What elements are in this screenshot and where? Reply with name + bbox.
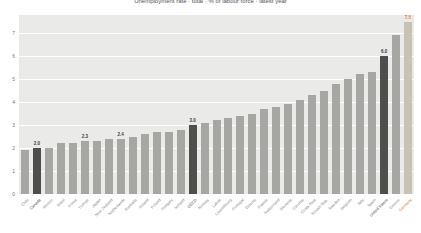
y-tick-label: 7 (1, 31, 15, 36)
y-tick-label: 5 (1, 77, 15, 82)
bar-Sweden (332, 84, 340, 194)
bar-Latvia (213, 120, 221, 194)
bar-value-label: 2.0 (25, 141, 49, 146)
bar-Chile (21, 150, 29, 194)
y-tick-label: 3 (1, 123, 15, 128)
bar-Norway (201, 123, 209, 194)
bar-France (260, 109, 268, 194)
bar-value-label: 2.3 (73, 134, 97, 139)
bar-Luxembourg (224, 118, 232, 194)
bar-Australia (129, 137, 137, 195)
bar-Mexico (45, 148, 53, 194)
bar-New Zealand (105, 139, 113, 194)
bar-Türkiye (81, 141, 89, 194)
bar-Netherlands (117, 139, 125, 194)
bar-Switzerland (272, 107, 280, 194)
bar-value-label: 6.0 (372, 49, 396, 54)
bar-Italy (356, 74, 364, 194)
bar-Slovak Rep. (320, 91, 328, 195)
gridline (19, 56, 414, 57)
bar-value-label: 7.5 (396, 15, 420, 20)
bar-value-label: 2.4 (109, 132, 133, 137)
gridline (19, 79, 414, 80)
bar-Spain (368, 72, 376, 194)
bar-value-label: 3.0 (181, 118, 205, 123)
gridline (19, 102, 414, 103)
y-tick-label: 2 (1, 146, 15, 151)
bar-Ireland (141, 134, 149, 194)
chart-title: Unemployment rate · total · % of labour … (0, 0, 421, 4)
gridline (19, 33, 414, 34)
bar-Iceland (177, 130, 185, 194)
bar-Slovenia (284, 104, 292, 194)
bar-Greece (392, 35, 400, 194)
bar-Korea (69, 143, 77, 194)
bar-Estonia (248, 114, 256, 195)
y-tick-label: 6 (1, 54, 15, 59)
y-tick-label: 4 (1, 100, 15, 105)
bar-Hungary (165, 132, 173, 194)
bar-Poland (153, 132, 161, 194)
bar-Israel (57, 143, 65, 194)
plot-area (19, 15, 414, 194)
bar-Costa Rica (308, 95, 316, 194)
bar-Portugal (236, 116, 244, 194)
bar-United States (380, 56, 388, 194)
y-tick-label: 0 (1, 192, 15, 197)
y-tick-label: 1 (1, 169, 15, 174)
bar-OECD (189, 125, 197, 194)
bar-Japan (93, 141, 101, 194)
bar-Germany (404, 22, 412, 195)
bar-Canada (33, 148, 41, 194)
bar-Czechia (296, 100, 304, 194)
bar-Belgium (344, 79, 352, 194)
bar-chart: Unemployment rate · total · % of labour … (0, 0, 421, 233)
